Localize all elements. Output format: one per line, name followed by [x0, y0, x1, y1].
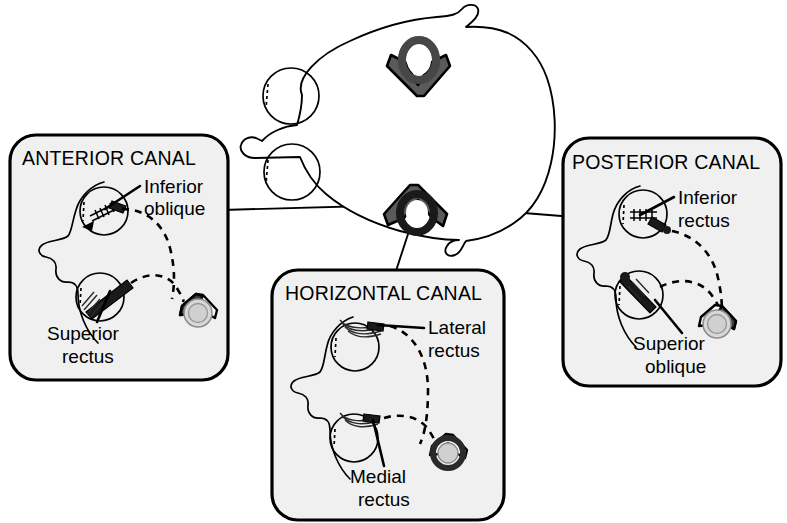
svg-text:rectus: rectus: [358, 489, 410, 510]
svg-text:Lateral: Lateral: [428, 317, 486, 338]
svg-text:rectus: rectus: [428, 340, 480, 361]
svg-text:Medial: Medial: [350, 466, 406, 487]
svg-text:Inferior: Inferior: [678, 187, 738, 208]
panel-anterior-canal[interactable]: ANTERIOR CANAL Inferior oblique Superior…: [10, 135, 228, 380]
vestibulo-ocular-reflex-diagram: ANTERIOR CANAL Inferior oblique Superior…: [0, 0, 787, 523]
panel-anterior-box: [10, 135, 228, 380]
figure-root: ANTERIOR CANAL Inferior oblique Superior…: [0, 0, 787, 523]
svg-text:rectus: rectus: [62, 346, 114, 367]
panel-posterior-canal[interactable]: POSTERIOR CANAL Inferior rectus Superior…: [563, 138, 781, 386]
panel-horizontal-canal[interactable]: HORIZONTAL CANAL Lateral rectus Medial r…: [272, 270, 504, 520]
svg-text:oblique: oblique: [645, 356, 706, 377]
svg-text:rectus: rectus: [678, 210, 730, 231]
panel-title-anterior: ANTERIOR CANAL: [22, 147, 196, 169]
svg-text:Inferior: Inferior: [144, 176, 204, 197]
panel-title-horizontal: HORIZONTAL CANAL: [285, 282, 482, 304]
center-head-group: [241, 5, 555, 256]
panel-title-posterior: POSTERIOR CANAL: [572, 151, 760, 173]
svg-text:Superior: Superior: [633, 333, 705, 354]
svg-text:oblique: oblique: [144, 198, 205, 219]
svg-text:Superior: Superior: [47, 323, 119, 344]
